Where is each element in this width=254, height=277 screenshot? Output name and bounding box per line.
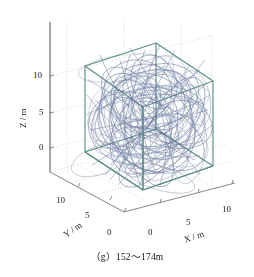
figure-panel: 10 5 0 Z / m 10 5 0 Y / m 0 5 10 X / m （… <box>0 0 254 277</box>
x-tick-0: 0 <box>148 228 153 237</box>
z-tick-5: 5 <box>39 108 44 117</box>
y-tick-10: 10 <box>56 196 65 205</box>
y-tick-5: 5 <box>85 211 90 220</box>
z-tick-10: 10 <box>33 71 42 80</box>
z-tick-0: 0 <box>39 143 44 152</box>
z-axis-label: Z / m <box>19 109 28 129</box>
trajectory-3d-plot <box>0 0 254 250</box>
x-tick-10: 10 <box>222 205 231 214</box>
y-tick-0: 0 <box>107 228 112 237</box>
x-tick-5: 5 <box>186 218 191 227</box>
figure-caption: （g）152～174m <box>0 249 254 263</box>
